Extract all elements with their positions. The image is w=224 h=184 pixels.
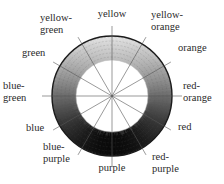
label-blue-green: blue-green (3, 80, 27, 103)
label-green: green (22, 47, 46, 58)
label-red-purple: red-purple (152, 151, 179, 174)
label-orange: orange (178, 42, 207, 53)
label-yellow-green: yellow-green (40, 12, 73, 35)
label-red-orange: red-orange (183, 80, 212, 103)
label-yellow: yellow (98, 8, 127, 19)
label-purple: purple (99, 162, 126, 173)
label-blue: blue (26, 122, 44, 133)
color-wheel-diagram: yellowyellow-orangeorangered-orangeredre… (0, 0, 224, 184)
color-wheel: yellowyellow-orangeorangered-orangeredre… (0, 0, 224, 184)
label-yellow-orange: yellow-orange (151, 9, 184, 32)
label-red: red (178, 121, 192, 132)
